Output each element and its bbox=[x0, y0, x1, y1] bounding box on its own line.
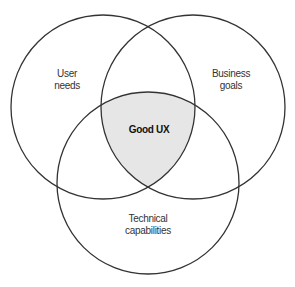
good-ux-intersection bbox=[57, 92, 239, 274]
label-line: goals bbox=[212, 80, 250, 92]
label-good-ux: Good UX bbox=[129, 124, 170, 136]
label-line: Business bbox=[212, 68, 250, 80]
label-line: capabilities bbox=[125, 225, 171, 237]
label-technical-capabilities: Technical capabilities bbox=[125, 213, 171, 237]
label-line: Good UX bbox=[129, 124, 170, 136]
venn-diagram bbox=[0, 0, 295, 287]
label-line: User bbox=[54, 68, 80, 80]
label-user-needs: User needs bbox=[54, 68, 80, 92]
label-line: Technical bbox=[125, 213, 171, 225]
label-line: needs bbox=[54, 80, 80, 92]
label-business-goals: Business goals bbox=[212, 68, 250, 92]
